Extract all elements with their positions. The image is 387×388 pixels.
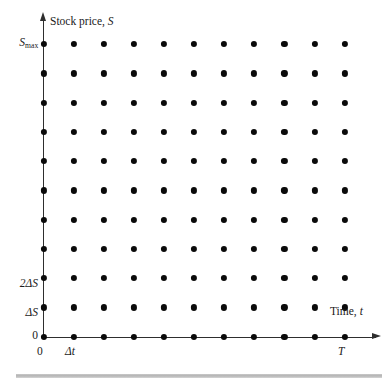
grid-node (161, 246, 167, 252)
bottom-divider (16, 374, 382, 378)
grid-node (41, 275, 47, 281)
grid-node (191, 217, 197, 223)
grid-node (251, 187, 257, 193)
y-tick-label-smax: Smax (0, 37, 38, 49)
grid-node (131, 217, 137, 223)
grid-node (131, 246, 137, 252)
grid-node (342, 100, 348, 106)
y-tick-label-delta-s: ΔS (0, 307, 38, 319)
grid-node (191, 246, 197, 252)
grid-node (41, 334, 47, 340)
grid-node (221, 217, 227, 223)
grid-node (41, 100, 47, 106)
grid-node (221, 158, 227, 164)
grid-node (131, 187, 137, 193)
grid-node (221, 129, 227, 135)
grid-node (311, 70, 317, 76)
grid-node (251, 41, 257, 47)
y-tick-smax-subscript: max (25, 41, 38, 50)
grid-node (251, 100, 257, 106)
grid-node (101, 70, 107, 76)
grid-node (342, 275, 348, 281)
grid-node (101, 100, 107, 106)
x-axis-title-variable: t (360, 305, 363, 317)
grid-node (281, 304, 287, 310)
x-tick-label-maturity: T (338, 346, 344, 358)
grid-node (161, 334, 167, 340)
grid-node (101, 334, 107, 340)
grid-node (71, 275, 77, 281)
grid-node (191, 129, 197, 135)
grid-node (281, 41, 287, 47)
grid-node (342, 158, 348, 164)
grid-node (191, 187, 197, 193)
grid-node (221, 304, 227, 310)
grid-node (71, 304, 77, 310)
grid-node (281, 275, 287, 281)
y-axis-line (43, 15, 44, 338)
grid-node (41, 304, 47, 310)
grid-node (161, 187, 167, 193)
grid-node (342, 41, 348, 47)
y-tick-label-two-delta-s: 2ΔS (0, 278, 38, 290)
grid-node (251, 334, 257, 340)
grid-node (101, 275, 107, 281)
x-tick-label-delta-t: Δt (65, 346, 75, 358)
grid-node (221, 275, 227, 281)
x-axis-title: Time, t (330, 306, 363, 318)
x-axis-title-prefix: Time, (330, 305, 360, 317)
grid-node (221, 70, 227, 76)
grid-node (281, 129, 287, 135)
x-axis-line (43, 337, 376, 338)
grid-node (191, 275, 197, 281)
y-axis-title-prefix: Stock price, (50, 15, 108, 27)
grid-node (71, 217, 77, 223)
grid-node (71, 334, 77, 340)
y-tick-label-zero: 0 (0, 330, 38, 342)
grid-node (342, 217, 348, 223)
grid-node (191, 41, 197, 47)
grid-node (342, 334, 348, 340)
grid-node (41, 41, 47, 47)
grid-node (251, 246, 257, 252)
grid-node (221, 41, 227, 47)
grid-node (71, 158, 77, 164)
grid-node (71, 70, 77, 76)
grid-node (131, 334, 137, 340)
grid-node (221, 334, 227, 340)
grid-node (131, 275, 137, 281)
grid-node (311, 217, 317, 223)
grid-node (161, 304, 167, 310)
grid-node (281, 217, 287, 223)
grid-node (131, 70, 137, 76)
grid-node (101, 158, 107, 164)
grid-node (41, 217, 47, 223)
grid-node (191, 158, 197, 164)
y-axis-title-variable: S (108, 15, 114, 27)
grid-node (161, 158, 167, 164)
grid-node (131, 41, 137, 47)
grid-node (281, 70, 287, 76)
grid-node (41, 158, 47, 164)
grid-node (71, 41, 77, 47)
grid-node (311, 158, 317, 164)
grid-node (342, 187, 348, 193)
grid-node (281, 246, 287, 252)
grid-node (251, 70, 257, 76)
grid-node (221, 187, 227, 193)
grid-node (161, 41, 167, 47)
grid-node (311, 334, 317, 340)
grid-node (71, 100, 77, 106)
grid-node (311, 304, 317, 310)
grid-node (251, 275, 257, 281)
grid-node (71, 246, 77, 252)
grid-node (41, 246, 47, 252)
right-arrow-icon (372, 333, 381, 339)
grid-node (101, 41, 107, 47)
grid-node (131, 158, 137, 164)
grid-node (191, 100, 197, 106)
grid-node (281, 334, 287, 340)
grid-node (101, 187, 107, 193)
grid-node (191, 70, 197, 76)
grid-node (311, 246, 317, 252)
